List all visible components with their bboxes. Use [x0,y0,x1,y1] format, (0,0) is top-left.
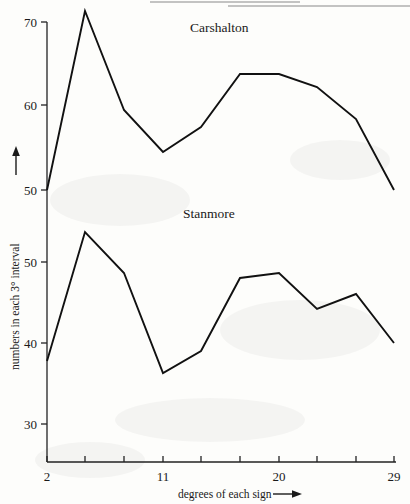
chart-figure: 70 60 50 50 40 30 2 11 20 29 Carshalton … [0,0,410,504]
y-label-70: 70 [24,15,37,30]
x-label-20: 20 [273,469,286,484]
y-label-30: 30 [24,417,37,432]
x-label-11: 11 [157,469,170,484]
y-label-60: 60 [24,98,37,113]
series-label-carshalton: Carshalton [190,20,249,35]
page-texture [35,140,390,478]
y-label-40: 40 [24,336,37,351]
x-label-29: 29 [388,469,401,484]
right-arrow-icon [292,490,302,497]
chart-svg: 70 60 50 50 40 30 2 11 20 29 Carshalton … [0,0,410,504]
series-label-stanmore: Stanmore [183,206,235,221]
up-arrow-icon [12,146,20,156]
y-label-50-lower: 50 [24,255,37,270]
x-label-2: 2 [44,469,51,484]
y-label-50-upper: 50 [24,183,37,198]
y-axis-title: numbers in each 3° interval [9,243,21,370]
y-axis-tick-labels: 70 60 50 50 40 30 [24,15,37,432]
x-axis-title: degrees of each sign [178,488,272,501]
y-axis-title-group: numbers in each 3° interval [9,146,21,370]
x-axis-title-group: degrees of each sign [178,488,302,501]
